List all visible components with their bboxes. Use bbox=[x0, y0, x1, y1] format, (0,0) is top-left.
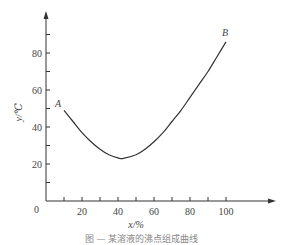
y-axis-arrow-icon bbox=[44, 11, 49, 19]
origin-label: 0 bbox=[34, 204, 39, 215]
x-tick-label: 20 bbox=[77, 206, 87, 217]
ticks: 20406080100204060800 bbox=[32, 35, 234, 218]
y-tick-label: 80 bbox=[32, 48, 42, 59]
y-tick-label: 60 bbox=[32, 85, 42, 96]
data-curve bbox=[64, 42, 226, 159]
y-tick-label: 20 bbox=[32, 159, 42, 170]
point-a-label: A bbox=[54, 98, 62, 109]
x-tick-label: 40 bbox=[113, 206, 123, 217]
x-tick-label: 60 bbox=[149, 206, 159, 217]
x-tick-label: 100 bbox=[219, 206, 234, 217]
figure-caption: 图 — 某溶液的沸点组成曲线 bbox=[0, 232, 283, 245]
point-b-label: B bbox=[222, 27, 228, 38]
x-axis-arrow-icon bbox=[268, 199, 276, 204]
x-axis-title: x/% bbox=[127, 219, 144, 230]
x-tick-label: 80 bbox=[185, 206, 195, 217]
y-tick-label: 40 bbox=[32, 122, 42, 133]
axes bbox=[44, 11, 277, 204]
y-axis-title: y/℃ bbox=[13, 103, 24, 122]
